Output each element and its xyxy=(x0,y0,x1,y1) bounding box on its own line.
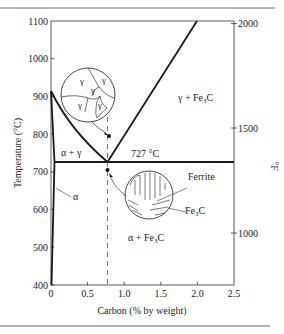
alpha-leader xyxy=(56,188,71,197)
x-tick-label: 0.5 xyxy=(81,288,94,299)
x-tick-label: 0 xyxy=(49,288,54,299)
phase-diagram: 400 500 600 700 800 900 1000 1100 1000 1… xyxy=(0,0,284,334)
alpha-fe3c-label: α + Fe3C xyxy=(128,232,164,245)
alpha-label: α xyxy=(73,191,79,202)
eutectoid-temp-label: 727 °C xyxy=(131,148,159,159)
y-axis-title: Temperature (°C) xyxy=(12,118,24,188)
y-tick-label: 1100 xyxy=(28,16,48,27)
x-axis-title: Carbon (% by weight) xyxy=(97,305,186,317)
y-right-tick-label: 1000 xyxy=(238,228,258,239)
x-tick-label: 2.0 xyxy=(191,288,204,299)
x-tick-label: 2.5 xyxy=(228,288,241,299)
y-tick-label: 600 xyxy=(33,204,48,215)
alpha-gamma-label: α + γ xyxy=(61,147,82,158)
svg-text:γ: γ xyxy=(97,100,102,110)
y-axis-left: 400 500 600 700 800 900 1000 1100 xyxy=(28,16,54,291)
pearlite-inset xyxy=(106,168,188,219)
svg-text:γ: γ xyxy=(101,75,106,85)
y-right-tick-label: 2000 xyxy=(238,18,258,29)
x-axis: 0 0.5 1.0 1.5 2.0 2.5 xyxy=(49,282,241,299)
y-axis-right: 1000 1500 2000 xyxy=(231,18,258,239)
y-tick-label: 900 xyxy=(33,91,48,102)
austenite-grain-inset: γ γ γ γ γ xyxy=(61,68,115,138)
ferrite-label: Ferrite xyxy=(188,171,215,182)
gamma-fe3c-label: γ + Fe3C xyxy=(177,92,214,105)
alpha-solvus xyxy=(51,91,55,285)
y-tick-label: 700 xyxy=(33,166,48,177)
x-tick-label: 1.0 xyxy=(118,288,131,299)
y-tick-label: 800 xyxy=(33,129,48,140)
svg-text:γ: γ xyxy=(90,85,95,95)
y-tick-label: 500 xyxy=(33,242,48,253)
y-right-tick-label: 1500 xyxy=(238,123,258,134)
fe3c-label: Fe3C xyxy=(185,205,206,218)
svg-text:γ: γ xyxy=(79,76,84,86)
y-right-axis-title: °F xyxy=(269,161,280,171)
y-tick-label: 400 xyxy=(33,280,48,291)
svg-text:γ: γ xyxy=(77,100,82,110)
y-tick-label: 1000 xyxy=(28,53,48,64)
x-tick-label: 1.5 xyxy=(155,288,168,299)
